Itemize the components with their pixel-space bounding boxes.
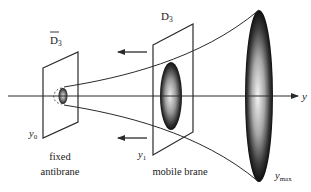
mobile-brane-label: D3 — [161, 10, 173, 24]
mobile-brane-subscript: 3 — [169, 15, 173, 24]
y-axis-label: y — [301, 90, 307, 102]
antibrane-subscript: 3 — [58, 39, 62, 48]
ymax-label: ymax — [274, 170, 292, 183]
y1-label: y1 — [137, 149, 147, 162]
mobile-brane-caption: mobile brane — [152, 166, 207, 177]
antibrane-label: D3 — [50, 32, 62, 48]
svg-text:D3: D3 — [50, 34, 62, 48]
antibrane-symbol: D — [50, 34, 58, 46]
y0-label: y0 — [28, 128, 38, 141]
mobile-brane-symbol: D — [161, 10, 169, 22]
antibrane-caption-line1: fixed — [49, 151, 71, 162]
antibrane-caption-line2: antibrane — [40, 166, 79, 177]
brane-throat-diagram: y D3 D3 y0 y1 ymax fixed antibrane mobil… — [0, 0, 311, 192]
